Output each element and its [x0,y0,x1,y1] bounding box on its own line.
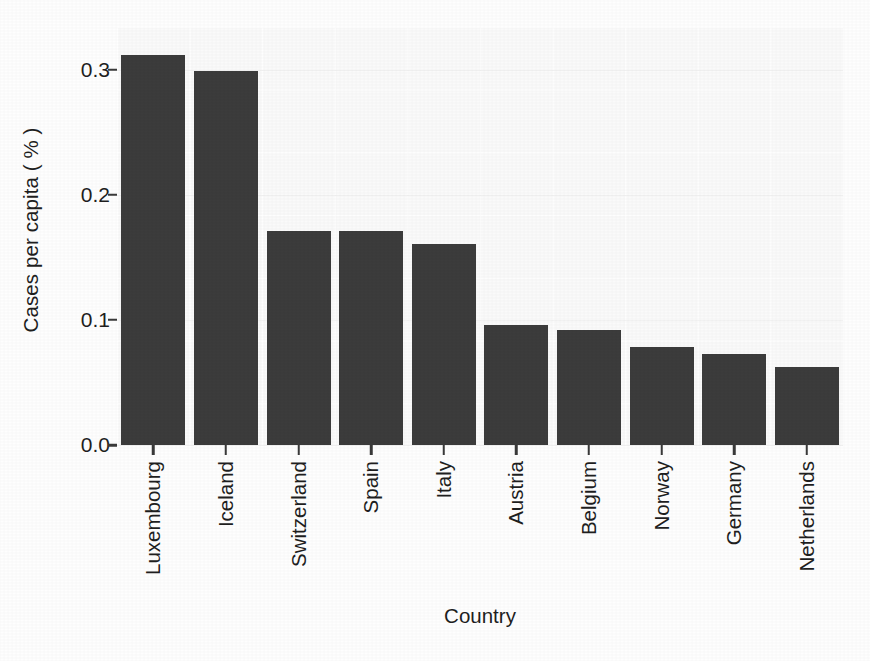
x-tick-label-text: Belgium [577,461,601,535]
x-tick-label-text: Italy [432,461,456,499]
y-tick-mark [108,193,117,196]
x-tick-label: Switzerland [299,355,323,461]
x-tick-label-text: Netherlands [795,461,819,572]
x-tick-label-text: Switzerland [287,461,311,567]
x-tick-label: Belgium [589,387,613,461]
x-tick-label-text: Germany [722,461,746,545]
x-tick-label-text: Austria [504,461,528,525]
x-tick-label: Luxembourg [153,347,177,461]
bar[interactable] [412,244,476,445]
bar[interactable] [194,71,258,445]
x-tick-label: Austria [516,397,540,461]
y-tick-mark [108,319,117,322]
y-tick-label: 0.2 [48,183,110,207]
y-tick-label: 0.3 [48,58,110,82]
x-tick-label: Norway [662,392,686,462]
x-axis-title: Country [117,604,843,628]
x-tick-label-text: Norway [650,461,674,531]
x-tick-label: Spain [371,409,395,461]
x-tick-label: Iceland [226,395,250,461]
y-tick-mark [108,444,117,447]
x-tick-label-text: Spain [359,461,383,513]
x-tick-label: Germany [734,377,758,461]
x-tick-label-text: Iceland [214,461,238,527]
bar-chart-figure: Cases per capita ( % ) 0.30.20.10.0 Luxe… [0,0,870,661]
y-tick-label: 0.0 [48,433,110,457]
x-tick-label-text: Luxembourg [141,461,165,575]
x-tick-label: Italy [444,423,468,461]
y-axis: 0.30.20.10.0 [40,0,110,661]
x-tick-label: Netherlands [807,350,831,461]
y-tick-mark [108,68,117,71]
x-axis: LuxembourgIcelandSwitzerlandSpainItalyAu… [117,445,843,661]
y-tick-label: 0.1 [48,308,110,332]
